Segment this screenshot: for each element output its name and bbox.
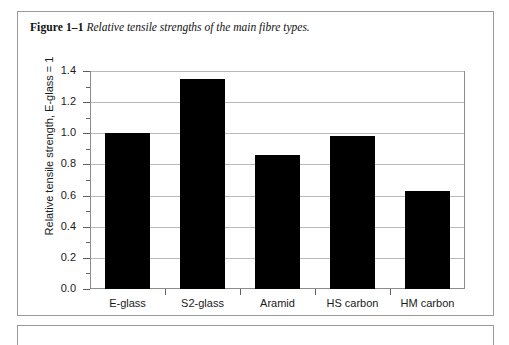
y-axis-major-tick	[83, 164, 90, 165]
y-axis-tick-label: 1.2	[36, 96, 76, 107]
y-axis-major-tick	[83, 133, 90, 134]
x-axis-tick	[315, 289, 316, 295]
next-figure-box	[17, 325, 494, 345]
y-axis-tick-label: 1.4	[36, 65, 76, 76]
y-axis-major-tick	[83, 289, 90, 290]
y-axis-tick-label: 0.0	[36, 283, 76, 294]
bar	[180, 79, 225, 289]
figure-box: Figure 1–1 Relative tensile strengths of…	[17, 11, 494, 316]
x-axis-tick	[240, 289, 241, 295]
y-axis-major-tick	[83, 227, 90, 228]
y-axis-tick-label: 0.8	[36, 158, 76, 169]
bar	[405, 191, 450, 289]
bar	[105, 133, 150, 289]
figure-caption: Figure 1–1 Relative tensile strengths of…	[30, 21, 485, 34]
y-axis-major-tick	[83, 196, 90, 197]
figure-label: Figure 1–1	[30, 21, 84, 33]
y-axis-major-tick	[83, 102, 90, 103]
y-axis-tick-label: 1.0	[36, 127, 76, 138]
figure-caption-text: Relative tensile strengths of the main f…	[86, 21, 309, 33]
x-axis-category-label: HS carbon	[315, 297, 390, 309]
y-axis-major-tick	[83, 71, 90, 72]
x-axis-tick	[165, 289, 166, 295]
bar	[255, 155, 300, 289]
x-axis-category-label: S2-glass	[165, 297, 240, 309]
y-axis-major-tick	[83, 258, 90, 259]
x-axis-category-label: HM carbon	[390, 297, 465, 309]
y-axis-tick-label: 0.6	[36, 190, 76, 201]
bar-series	[90, 71, 465, 289]
x-axis-category-label: Aramid	[240, 297, 315, 309]
bar	[330, 136, 375, 289]
x-axis-tick	[390, 289, 391, 295]
x-axis-category-label: E-glass	[90, 297, 165, 309]
y-axis-tick-label: 0.4	[36, 221, 76, 232]
y-axis-tick-label: 0.2	[36, 252, 76, 263]
bar-chart: Relative tensile strength, E-glass = 1 0…	[18, 36, 495, 315]
